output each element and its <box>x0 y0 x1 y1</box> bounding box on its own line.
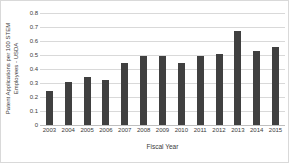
x-axis-tick-label: 2013 <box>228 127 247 139</box>
x-axis-tick-label: 2014 <box>247 127 266 139</box>
x-axis-tick-label: 2008 <box>134 127 153 139</box>
bar-slot <box>115 13 134 125</box>
bar <box>178 63 185 125</box>
y-axis-title: Patent Applications per 100 STEM Employe… <box>2 7 24 129</box>
y-axis-tick-label: 0.2 <box>30 94 38 100</box>
axis-baseline <box>40 125 285 126</box>
bar <box>272 47 279 125</box>
x-axis-tick-label: 2012 <box>210 127 229 139</box>
bar <box>197 56 204 125</box>
x-axis-tick-labels: 2003200420052006200720082009201020112012… <box>40 127 285 139</box>
x-axis-tick-label: 2006 <box>97 127 116 139</box>
bar-slot <box>191 13 210 125</box>
bar-slot <box>247 13 266 125</box>
bar-slot <box>59 13 78 125</box>
y-axis-tick-label: 0.4 <box>30 66 38 72</box>
bar <box>102 80 109 125</box>
bar <box>84 77 91 125</box>
bar-slot <box>210 13 229 125</box>
y-axis-tick-label: 0.6 <box>30 38 38 44</box>
y-axis-tick-label: 0 <box>35 122 38 128</box>
x-axis-tick-label: 2004 <box>59 127 78 139</box>
bar-slot <box>172 13 191 125</box>
x-axis-tick-label: 2005 <box>78 127 97 139</box>
bar-slot <box>153 13 172 125</box>
bar-slot <box>266 13 285 125</box>
bar-chart: Patent Applications per 100 STEM Employe… <box>0 0 289 163</box>
bar-slot <box>134 13 153 125</box>
y-axis-tick-label: 0.8 <box>30 10 38 16</box>
bar <box>46 91 53 125</box>
x-axis-title: Fiscal Year <box>40 143 285 150</box>
x-axis-tick-label: 2009 <box>153 127 172 139</box>
bar <box>253 51 260 125</box>
bar <box>234 31 241 125</box>
y-axis-title-line-1: Patent Applications per 100 STEM <box>6 22 14 113</box>
bar <box>121 63 128 125</box>
y-axis-tick-label: 0.5 <box>30 52 38 58</box>
bar-slot <box>228 13 247 125</box>
bar <box>140 56 147 125</box>
y-axis-tick-labels: 0.80.70.60.50.40.30.20.10 <box>23 13 39 125</box>
y-axis-tick-label: 0.7 <box>30 24 38 30</box>
bar-slot <box>40 13 59 125</box>
bar <box>65 82 72 125</box>
y-axis-title-line-2: Employees - USDA <box>13 22 21 113</box>
x-axis-tick-label: 2007 <box>115 127 134 139</box>
x-axis-tick-label: 2015 <box>266 127 285 139</box>
y-axis-tick-label: 0.3 <box>30 80 38 86</box>
x-axis-tick-label: 2010 <box>172 127 191 139</box>
bar <box>159 56 166 125</box>
bars-layer <box>40 13 285 125</box>
plot-area <box>40 13 285 125</box>
y-axis-tick-label: 0.1 <box>30 108 38 114</box>
x-axis-tick-label: 2011 <box>191 127 210 139</box>
bar <box>216 54 223 125</box>
x-axis-tick-label: 2003 <box>40 127 59 139</box>
bar-slot <box>78 13 97 125</box>
bar-slot <box>97 13 116 125</box>
